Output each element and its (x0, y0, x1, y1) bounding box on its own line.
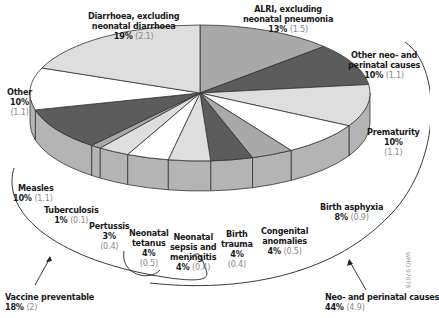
label-text: sepsis and (170, 242, 216, 252)
label-text: Vaccine preventable (5, 292, 94, 302)
label-text: meningitis (170, 252, 216, 262)
label-neonatal-sepsis: Neonatal sepsis and meningitis 4% (0.4) (170, 232, 216, 272)
label-value: (2) (26, 302, 37, 312)
label-value: (1.1) (34, 193, 52, 203)
label-percent: 4% (221, 249, 253, 259)
vaccine-arrow (35, 258, 50, 285)
label-text: Neonatal (170, 232, 216, 242)
label-percent: 10% (364, 70, 383, 80)
slice-side-neonatal-tetanus (128, 155, 169, 190)
neo-arrow (350, 262, 366, 290)
label-text: tetanus (129, 238, 169, 248)
label-text: Birth (221, 229, 253, 239)
label-percent: 3% (89, 231, 130, 241)
label-percent: 10% (367, 137, 420, 147)
label-percent: 44% (325, 302, 344, 312)
label-prematurity: Prematurity 10% (1.1) (367, 127, 420, 157)
label-percent: 10% (7, 97, 32, 107)
label-text: Tuberculosis (44, 205, 99, 215)
label-text: Neonatal (129, 228, 169, 238)
label-text: Birth asphyxia (320, 202, 383, 212)
label-percent: 8% (334, 212, 347, 222)
label-text: Diarrhoea, excluding (88, 11, 179, 21)
label-value: (0.9) (350, 212, 368, 222)
label-text: Measles (13, 183, 54, 193)
label-neonatal-tetanus: Neonatal tetanus 4% (0.5) (129, 228, 169, 268)
label-birth-trauma: Birth trauma 4% (0.4) (221, 229, 253, 269)
label-neo-perinatal-group: Neo- and perinatal causes 44% (4.9) (325, 292, 439, 312)
label-tuberculosis: Tuberculosis 1% (0.1) (44, 205, 99, 225)
vaccine-arrowhead (46, 256, 52, 262)
label-percent: 18% (5, 302, 24, 312)
label-value: (4.9) (346, 302, 364, 312)
label-birth-asphyxia: Birth asphyxia 8% (0.9) (320, 202, 383, 222)
label-percent: 13% (268, 24, 287, 34)
label-value: (0.4) (89, 241, 130, 251)
label-text: neonatal diarrhoea (88, 21, 179, 31)
label-text: anomalies (261, 236, 308, 246)
label-percent: 4% (129, 248, 169, 258)
label-measles: Measles 10% (1.1) (13, 183, 54, 203)
label-percent: 4% (268, 246, 281, 256)
figure-code: WHO 97078 (405, 252, 412, 288)
label-other: Other 10% (1.1) (7, 87, 32, 117)
label-text: ALRI, excluding (243, 4, 333, 14)
label-congenital: Congenital anomalies 4% (0.5) (261, 226, 308, 256)
label-percent: 10% (13, 193, 32, 203)
label-vaccine-preventable: Vaccine preventable 18% (2) (5, 292, 94, 312)
label-text: neonatal pneumonia (243, 14, 333, 24)
label-text: Other neo- and (348, 50, 420, 60)
label-pertussis: Pertussis 3% (0.4) (89, 221, 130, 251)
label-text: Prematurity (367, 127, 420, 137)
label-text: trauma (221, 239, 253, 249)
slice-side-birth-trauma (211, 158, 253, 191)
label-value: (1.5) (290, 24, 308, 34)
slice-side-tuberculosis (92, 145, 100, 178)
label-value: (2.1) (135, 31, 153, 41)
label-percent: 1% (54, 215, 67, 225)
slice-side-neonatal-sepsis-and-meningitis (168, 160, 211, 191)
label-value: (1.1) (7, 107, 32, 117)
label-percent: 19% (114, 31, 133, 41)
label-value: (0.5) (129, 258, 169, 268)
label-other-neo: Other neo- and perinatal causes 10% (1.1… (348, 50, 420, 80)
label-value: (0.4) (221, 259, 253, 269)
label-diarrhoea: Diarrhoea, excluding neonatal diarrhoea … (88, 11, 179, 41)
label-alri: ALRI, excluding neonatal pneumonia 13% (… (243, 4, 333, 34)
label-text: Neo- and perinatal causes (325, 292, 439, 302)
label-text: perinatal causes (348, 60, 420, 70)
label-text: Other (7, 87, 32, 97)
label-value: (1.1) (367, 147, 420, 157)
pie-slices (30, 25, 370, 161)
label-percent: 4% (176, 262, 189, 272)
label-text: Congenital (261, 226, 308, 236)
label-value: (0.5) (284, 246, 302, 256)
label-value: (1.1) (386, 70, 404, 80)
label-value: (0.1) (70, 215, 88, 225)
label-value: (0.4) (192, 262, 210, 272)
